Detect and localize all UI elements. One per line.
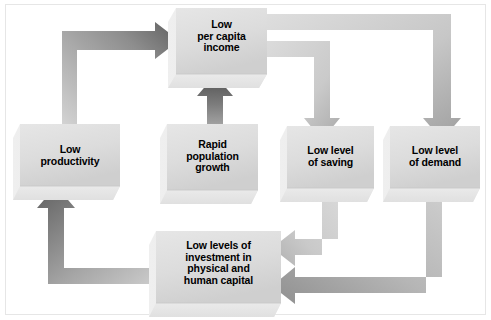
diagram-canvas: Low per capita income Low productivity R… (0, 0, 491, 320)
node-low-level-of-saving[interactable] (280, 126, 374, 202)
node-low-productivity[interactable] (13, 124, 120, 200)
box-layer (0, 0, 491, 320)
node-low-level-of-demand[interactable] (383, 126, 480, 202)
node-low-per-capita-income[interactable] (168, 8, 267, 88)
node-rapid-population-growth[interactable] (160, 124, 258, 204)
node-low-levels-of-investment[interactable] (149, 231, 281, 317)
